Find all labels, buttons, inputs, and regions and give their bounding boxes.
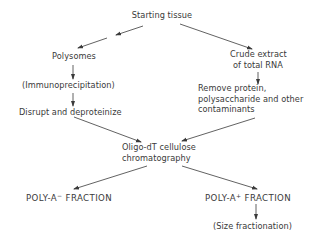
node-label: Starting tissue xyxy=(128,10,196,21)
edge-start-polysomes-a xyxy=(116,26,143,35)
node-oligo-dt-chromatography: Oligo-dT cellulose chromatography xyxy=(122,142,196,163)
edge-remove-oligo xyxy=(182,118,255,141)
label-rest: FRACTION xyxy=(62,193,112,203)
label-base: POLY-A xyxy=(26,193,57,203)
node-crude-extract: Crude extract of total RNA xyxy=(230,49,287,70)
node-label-line2: chromatography xyxy=(122,153,196,164)
edge-oligo-polyAminus xyxy=(74,166,147,189)
node-remove-contaminants: Remove protein, polysaccharide and other… xyxy=(198,83,303,115)
node-label-line1: Crude extract xyxy=(230,49,287,60)
node-label-line3: contaminants xyxy=(198,104,303,115)
node-label-line2: of total RNA xyxy=(230,60,287,71)
label-rest: FRACTION xyxy=(241,193,291,203)
diagram-canvas: Starting tissue Polysomes (Immunoprecipi… xyxy=(0,0,324,241)
edge-disrupt-oligo xyxy=(74,117,141,142)
node-poly-a-minus-fraction: POLY-A− FRACTION xyxy=(26,193,112,204)
node-disrupt-deproteinize: Disrupt and deproteinize xyxy=(19,107,122,118)
node-label-line2: polysaccharide and other xyxy=(198,94,303,105)
node-label-line1: Oligo-dT cellulose xyxy=(122,142,196,153)
node-label: Polysomes xyxy=(46,51,102,62)
node-label: POLY-A− FRACTION xyxy=(26,193,112,203)
edge-start-polysomes-b xyxy=(78,38,107,48)
node-size-fractionation: (Size fractionation) xyxy=(213,221,292,232)
node-label: POLY-A+ FRACTION xyxy=(205,193,291,203)
node-label-line1: Remove protein, xyxy=(198,83,303,94)
node-immunoprecipitation: (Immunoprecipitation) xyxy=(22,80,115,91)
node-label: (Size fractionation) xyxy=(213,221,292,232)
label-base: POLY-A xyxy=(205,193,236,203)
node-label: Disrupt and deproteinize xyxy=(19,107,122,118)
edge-oligo-polyAplus xyxy=(182,166,257,189)
edge-start-crude xyxy=(180,24,252,49)
node-label: (Immunoprecipitation) xyxy=(22,80,115,91)
node-starting-tissue: Starting tissue xyxy=(128,10,196,21)
edges-layer xyxy=(0,0,324,241)
node-poly-a-plus-fraction: POLY-A+ FRACTION xyxy=(205,193,291,204)
node-polysomes: Polysomes xyxy=(46,51,102,62)
